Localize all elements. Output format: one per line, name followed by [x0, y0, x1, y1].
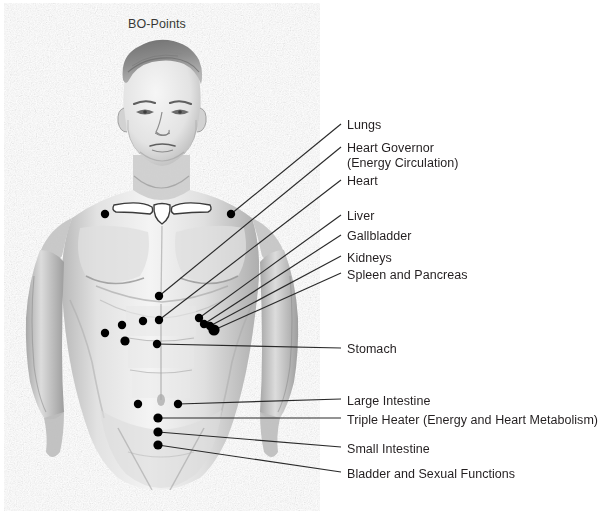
- label-heart-gov: Heart Governor: [347, 141, 434, 156]
- leader-line-group: [157, 124, 341, 472]
- point-marker-group: [101, 210, 235, 450]
- label-heart: Heart: [347, 174, 378, 189]
- label-stomach: Stomach: [347, 342, 397, 357]
- point-marker-pt-small-int[interactable]: [153, 427, 162, 436]
- leader-line-small-int: [158, 432, 341, 447]
- leader-line-heart: [159, 180, 341, 320]
- label-spleen: Spleen and Pancreas: [347, 268, 467, 283]
- point-marker-pt-bladder[interactable]: [153, 440, 162, 449]
- point-marker-pt-flank-d[interactable]: [120, 336, 129, 345]
- label-small-int: Small Intestine: [347, 442, 430, 457]
- leader-line-kidneys: [210, 256, 341, 326]
- point-marker-pt-lung-left[interactable]: [101, 210, 109, 218]
- label-gallbladder: Gallbladder: [347, 229, 411, 244]
- leader-line-liver: [199, 215, 341, 318]
- point-marker-pt-flank-c[interactable]: [101, 329, 109, 337]
- points-and-leaders-overlay: [0, 0, 614, 511]
- label-triple: Triple Heater (Energy and Heart Metaboli…: [347, 413, 598, 428]
- point-marker-pt-lung-right[interactable]: [227, 210, 235, 218]
- label-liver: Liver: [347, 209, 374, 224]
- label-kidneys: Kidneys: [347, 251, 392, 266]
- bo-points-diagram: BO-Points: [0, 0, 614, 511]
- leader-line-lungs: [231, 124, 341, 214]
- point-marker-pt-heart[interactable]: [155, 316, 163, 324]
- point-marker-pt-umbilical[interactable]: [134, 400, 142, 408]
- label-lungs: Lungs: [347, 118, 381, 133]
- leader-line-gallbladder: [204, 235, 341, 324]
- leader-line-heart-gov: [159, 147, 341, 296]
- point-marker-pt-heart-gov[interactable]: [155, 292, 163, 300]
- point-marker-pt-stomach[interactable]: [153, 340, 161, 348]
- point-marker-pt-spleen[interactable]: [208, 324, 219, 335]
- point-marker-pt-flank-a[interactable]: [118, 321, 126, 329]
- point-marker-pt-large-int[interactable]: [174, 400, 182, 408]
- leader-line-stomach: [157, 344, 341, 348]
- leader-line-large-int: [178, 399, 341, 404]
- leader-line-spleen: [214, 273, 341, 330]
- leader-line-bladder: [158, 445, 341, 472]
- label-large-int: Large Intestine: [347, 394, 430, 409]
- point-marker-pt-flank-b[interactable]: [139, 317, 147, 325]
- point-marker-pt-triple[interactable]: [153, 413, 162, 422]
- label-bladder: Bladder and Sexual Functions: [347, 467, 515, 482]
- label-heart-gov2: (Energy Circulation): [347, 156, 458, 171]
